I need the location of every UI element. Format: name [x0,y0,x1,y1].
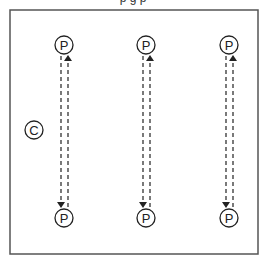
node-p-bottom-3: P [220,209,238,227]
node-p-bottom-1-label: P [60,211,69,226]
column-2: PP [137,36,155,227]
node-p-bottom-3-label: P [225,211,234,226]
column-1: PP [55,36,73,227]
center-node-c: C [25,121,43,139]
node-p-bottom-2-label: P [142,211,151,226]
parking-columns: PPPPPP [55,36,238,227]
node-p-top-1: P [55,36,73,54]
node-p-top-3: P [220,36,238,54]
node-c-label: C [29,123,38,138]
column-3: PP [220,36,238,227]
node-c: C [25,121,43,139]
node-p-top-3-label: P [225,38,234,53]
node-p-bottom-2: P [137,209,155,227]
node-p-top-2-label: P [142,38,151,53]
node-p-bottom-1: P [55,209,73,227]
diagram-canvas: C PPPPPP [0,0,266,264]
node-p-top-1-label: P [60,38,69,53]
node-p-top-2: P [137,36,155,54]
